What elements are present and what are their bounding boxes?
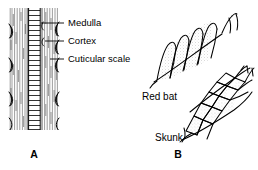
cortex-striations-left xyxy=(10,8,27,130)
hair-structure-figure: Medulla Cortex Cuticular scale A xyxy=(0,0,258,170)
callout-label-medulla: Medulla xyxy=(68,17,102,28)
callout-label-cortex: Cortex xyxy=(68,35,96,46)
callout-label-cuticular-scale: Cuticular scale xyxy=(68,53,130,64)
panel-a-hair-shaft: Medulla Cortex Cuticular scale A xyxy=(9,8,130,160)
red-bat-scale-diagram: Red bat xyxy=(142,14,238,102)
panel-a-letter: A xyxy=(30,148,38,160)
panel-b-letter: B xyxy=(174,148,182,160)
cortex-dashes-left xyxy=(11,12,25,127)
figure-canvas: Medulla Cortex Cuticular scale A xyxy=(0,0,258,170)
hair-shaft-body xyxy=(9,8,59,130)
panel-b-scale-patterns: Red bat xyxy=(142,14,254,160)
specimen-label-red-bat: Red bat xyxy=(142,91,177,102)
medulla-column xyxy=(29,8,41,130)
cortex-striations-right xyxy=(42,8,57,130)
specimen-label-skunk: Skunk xyxy=(155,132,184,143)
